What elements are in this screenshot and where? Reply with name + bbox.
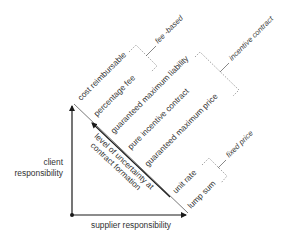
contract-type-guaranteed-maximum-price: guaranteed maximum price (143, 92, 220, 169)
group-label-incentive-contract: incentive contract (227, 14, 276, 63)
group-label-fixed-price: fixed price (224, 129, 255, 160)
fee-based-bracket (129, 45, 157, 72)
contract-type-pure-incentive-contract: pure incentive contract (126, 86, 191, 151)
contract-type-lump-sum: lump sum (186, 179, 218, 211)
client-label-line2: responsibility (15, 168, 64, 178)
contract-type-unit-rate: unit rate (171, 168, 199, 196)
group-label-fee-based: fee -based (153, 13, 185, 45)
hypotenuse-line (74, 104, 188, 213)
fixed-price-bracket (202, 158, 227, 183)
supplier-label: supplier responsibility (91, 220, 172, 230)
client-label-line1: client (43, 157, 63, 167)
origin-dot (70, 213, 74, 217)
contract-types-diagram: client responsibility supplier responsib… (0, 0, 292, 240)
